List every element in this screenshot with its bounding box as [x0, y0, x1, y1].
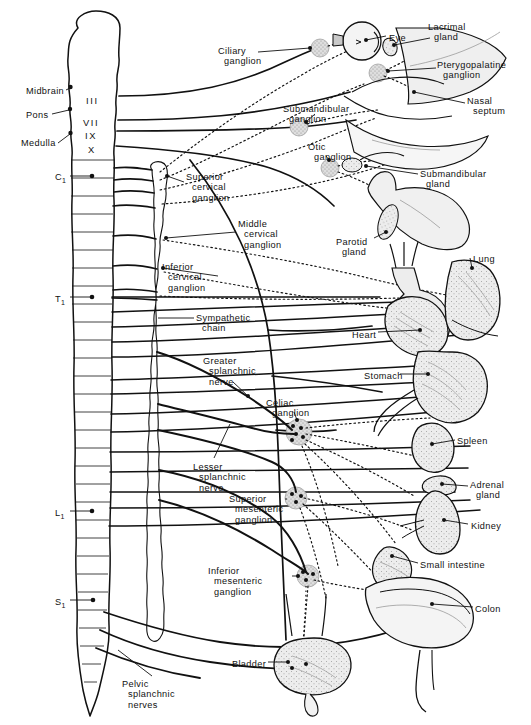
spleen-shape: [412, 423, 454, 472]
pelvic-splanchnic-nerves-line-3: nerves: [122, 700, 175, 710]
bladder-line-1: Bladder: [232, 659, 266, 669]
adrenal-gland-line-2: gland: [470, 490, 504, 500]
lung-shape: [445, 260, 500, 340]
abdomen-region: [365, 351, 487, 712]
pelvic-splanchnic-nerves-line-2: splanchnic: [122, 689, 175, 699]
midbrain-label: Midbrain: [26, 86, 64, 96]
stomach-line-1: Stomach: [364, 371, 403, 381]
c1-label: C1: [55, 172, 66, 186]
ciliary-ganglion-disc: [311, 39, 329, 57]
ciliary-ganglion-label: Ciliaryganglion: [218, 46, 262, 67]
eye-globe: [343, 22, 381, 60]
pons-label: Pons: [26, 110, 48, 120]
celiac-ganglion-line-2: ganglion: [266, 408, 310, 418]
submandibular-ganglion-label: Submandibularganglion: [283, 104, 349, 125]
middle-cervical-ganglion-line-1: Middle: [238, 219, 282, 229]
colon-shape: [365, 577, 473, 647]
sympathetic-chain-line-1: Sympathetic: [196, 313, 250, 323]
inferior-cervical-ganglion-line-2: cervical: [162, 272, 206, 282]
stomach-shape: [413, 351, 487, 423]
submandibular-gland-label: Submandibulargland: [420, 169, 486, 190]
lesser-splanchnic-nerve-line-1: Lesser: [193, 462, 246, 472]
celiac-ganglion-label: Celiacganglion: [266, 398, 310, 419]
parotid-gland-label: Parotidgland: [336, 237, 368, 258]
lacrimal-gland-line-1: Lacrimal: [428, 22, 466, 32]
otic-ganglion-label: Oticganglion: [308, 142, 352, 163]
superior-mesenteric-ganglion-line-3: ganglion: [229, 515, 283, 525]
greater-splanchnic-nerve-line-2: splanchnic: [203, 366, 256, 376]
t1-label: T1: [55, 294, 65, 308]
superior-cervical-ganglion-label: Superiorcervicalganglion: [186, 172, 230, 203]
medulla-label: Medulla: [21, 138, 56, 148]
nasal-septum-line-2: septum: [467, 106, 505, 116]
lacrimal-gland-label: Lacrimalgland: [428, 22, 466, 43]
otic-ganglion-line-1: Otic: [308, 142, 352, 152]
heart-label: Heart: [352, 330, 376, 340]
colon-line-1: Colon: [475, 604, 501, 614]
head-region: [333, 22, 506, 250]
s1-index: 1: [61, 602, 65, 609]
parotid-gland-line-1: Parotid: [336, 237, 368, 247]
lung-label: Lung: [473, 254, 495, 264]
superior-cervical-ganglion-line-3: ganglion: [186, 193, 230, 203]
cn-ix-numeral: IX: [85, 130, 97, 141]
inferior-mesenteric-ganglion-line-3: ganglion: [208, 587, 262, 597]
l1-index: 1: [60, 513, 64, 520]
nasal-septum-label: Nasalseptum: [467, 96, 505, 117]
eye-line-1: Eye: [389, 33, 406, 43]
middle-cervical-ganglion-line-3: ganglion: [238, 240, 282, 250]
lung-line-1: Lung: [473, 254, 495, 264]
ciliary-ganglion-line-2: ganglion: [218, 56, 262, 66]
bladder-shape: [274, 638, 351, 695]
inferior-cervical-ganglion-label: Inferiorcervicalganglion: [162, 262, 206, 293]
submandibular-gland-line-1: Submandibular: [420, 169, 486, 179]
nasal-septum-line-1: Nasal: [467, 96, 505, 106]
greater-splanchnic-nerve-label: Greatersplanchnicnerve: [203, 356, 256, 387]
sympathetic-chain-label: Sympatheticchain: [196, 313, 250, 334]
adrenal-gland-label: Adrenalgland: [470, 480, 504, 501]
lesser-splanchnic-nerve-label: Lessersplanchnicnerve: [193, 462, 246, 493]
adrenal-gland-line-1: Adrenal: [470, 480, 504, 490]
superior-cervical-ganglion-line-2: cervical: [186, 182, 230, 192]
sympathetic-chain-line-2: chain: [196, 323, 250, 333]
inferior-mesenteric-ganglion-line-1: Inferior: [208, 566, 262, 576]
inferior-mesenteric-ganglion-label: Inferiormesentericganglion: [208, 566, 262, 597]
heart-line-1: Heart: [352, 330, 376, 340]
sympathetic-chain-outline: [147, 162, 168, 642]
colon-label: Colon: [475, 604, 501, 614]
pelvic-splanchnic-nerves-label: Pelvicsplanchnicnerves: [122, 679, 175, 710]
sympathetic-chain: [147, 162, 168, 642]
pelvic-splanchnic-nerves-line-1: Pelvic: [122, 679, 175, 689]
kidney-label: Kidney: [471, 521, 501, 531]
bladder-label: Bladder: [232, 659, 266, 669]
middle-cervical-ganglion-label: Middlecervicalganglion: [238, 219, 282, 250]
cn-iii-numeral: III: [86, 95, 99, 106]
oral-cavity-shape: [346, 120, 488, 169]
celiac-ganglion-line-1: Celiac: [266, 398, 310, 408]
duodenum-shape: [374, 390, 414, 432]
submandibular-gland-line-2: gland: [420, 179, 486, 189]
pterygopalatine-ganglion-line-1: Pterygopalatine: [437, 60, 506, 70]
spinal-nerve-roots: [112, 167, 157, 300]
s1-label: S1: [55, 597, 65, 611]
greater-splanchnic-nerve-line-3: nerve: [203, 377, 256, 387]
lesser-splanchnic-nerve-line-3: nerve: [193, 483, 246, 493]
eye-label: Eye: [389, 33, 406, 43]
l1-label: L1: [55, 508, 64, 522]
submandibular-ganglion-line-1: Submandibular: [283, 104, 349, 114]
superior-mesenteric-ganglion-label: Superiormesentericganglion: [229, 494, 283, 525]
inferior-cervical-ganglion-line-1: Inferior: [162, 262, 206, 272]
celiac-ganglion-disc: [286, 419, 312, 445]
ciliary-ganglion-line-1: Ciliary: [218, 46, 262, 56]
superior-mesenteric-ganglion-line-1: Superior: [229, 494, 283, 504]
lacrimal-gland-line-2: gland: [428, 32, 466, 42]
superior-mesenteric-ganglion-line-2: mesenteric: [229, 504, 283, 514]
stomach-label: Stomach: [364, 371, 403, 381]
inferior-cervical-ganglion-line-3: ganglion: [162, 283, 206, 293]
c1-index: 1: [62, 177, 66, 184]
bladder-neck: [305, 694, 318, 716]
t1-index: 1: [61, 299, 65, 306]
greater-splanchnic-nerve-line-1: Greater: [203, 356, 256, 366]
autonomic-nervous-system-illustration: [0, 0, 531, 725]
parotid-gland-line-2: gland: [336, 247, 368, 257]
